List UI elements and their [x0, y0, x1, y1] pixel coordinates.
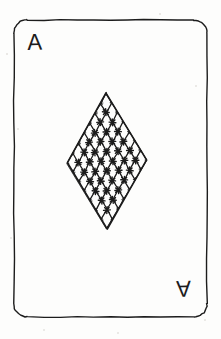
star-node	[109, 158, 116, 165]
star-node	[92, 168, 99, 175]
paper-speck	[43, 329, 45, 331]
star-node	[109, 196, 116, 203]
star-node	[92, 188, 99, 195]
star-node	[109, 119, 116, 126]
star-node	[81, 149, 88, 156]
star-node	[103, 148, 110, 155]
star-node	[109, 177, 116, 184]
star-node	[98, 197, 105, 204]
star-node	[126, 167, 133, 174]
paper-speck	[195, 85, 197, 87]
paper-speck	[159, 13, 161, 15]
star-node	[98, 158, 105, 165]
star-node	[97, 178, 104, 185]
star-node	[91, 129, 98, 136]
star-node	[132, 157, 139, 164]
star-node	[115, 128, 122, 135]
diamond-pip	[65, 91, 150, 231]
star-node	[127, 147, 134, 154]
star-node	[115, 148, 122, 155]
corner-rank-bottom-right: A	[176, 277, 191, 300]
star-node	[91, 149, 98, 156]
star-node	[87, 178, 94, 185]
star-node	[103, 187, 110, 194]
star-node	[103, 128, 110, 135]
paper-speck	[10, 237, 12, 239]
star-node	[104, 207, 111, 214]
star-node	[75, 159, 82, 166]
star-node	[120, 138, 127, 145]
paper-speck	[6, 53, 8, 55]
star-node	[81, 169, 88, 176]
star-node	[115, 187, 122, 194]
star-node	[104, 168, 111, 175]
star-node	[109, 138, 116, 145]
star-node	[102, 109, 109, 116]
star-node	[115, 167, 122, 174]
star-node	[97, 138, 104, 145]
card-outline	[14, 19, 208, 317]
star-node	[97, 119, 104, 126]
card-border	[14, 19, 208, 317]
paper-speck	[204, 319, 206, 321]
star-node	[121, 176, 128, 183]
pip-star-nodes	[65, 91, 150, 231]
card-canvas: A A	[0, 0, 221, 339]
paper-speck	[117, 332, 119, 334]
star-node	[86, 159, 93, 166]
corner-rank-top-left: A	[27, 31, 42, 54]
star-node	[121, 157, 128, 164]
star-node	[86, 139, 93, 146]
